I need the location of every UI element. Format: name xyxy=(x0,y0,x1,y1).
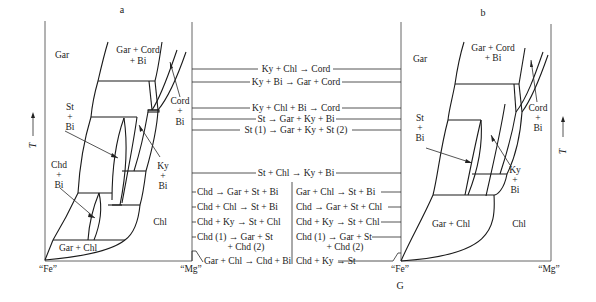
field-gar-cord-bi: Gar + Cord xyxy=(116,45,160,55)
reaction-3: Ky + Chl + Bi → Cord xyxy=(252,103,340,113)
field-cord-bi: Cord xyxy=(171,96,190,106)
field-gar: Gar xyxy=(413,54,428,64)
shared-reaction-lines: Ky + Chl → Cord Ky + Bi → Gar + Cord Ky … xyxy=(192,64,401,178)
panel-b-boundaries xyxy=(401,42,548,261)
panel-b-x-right-label: “Mg” xyxy=(538,264,560,274)
panel-b: b T xyxy=(401,7,568,274)
field-chl: Chl xyxy=(512,219,526,229)
panel-a-label: a xyxy=(120,4,125,15)
field-st-bi: St xyxy=(66,102,74,112)
phase-diagram-figure: a T xyxy=(0,0,596,302)
svg-text:+: + xyxy=(535,113,540,123)
panel-b-field-labels: Gar Gar + Cord + Bi Cord + Bi St + Bi Ky… xyxy=(413,43,548,229)
svg-text:+: + xyxy=(56,170,61,180)
panel-a-axis-t: T xyxy=(28,142,38,148)
temperature-axis-arrow-icon xyxy=(31,112,35,136)
svg-text:Bi: Bi xyxy=(511,185,520,195)
left-reaction-3: Chd + Ky → St + Chl xyxy=(197,217,281,227)
svg-text:+: + xyxy=(67,112,72,122)
reaction-1: Ky + Chl → Cord xyxy=(262,64,331,74)
svg-text:+ Chd (2): + Chd (2) xyxy=(227,242,264,253)
reaction-6: St + Chl → Ky + Bi xyxy=(258,168,335,178)
right-reaction-column: Gar + Chl → St + Bi Chd → Gar + St + Chl… xyxy=(296,187,401,266)
field-cord-bi: Cord xyxy=(529,103,548,113)
field-gar-chl: Gar + Chl xyxy=(432,219,470,229)
svg-text:+: + xyxy=(160,171,165,181)
panel-a: a T xyxy=(28,4,202,274)
field-ky-bi: Ky xyxy=(157,161,169,171)
panel-a-field-labels: Gar Gar + Cord + Bi Cord + Bi St + Bi Ch… xyxy=(51,45,190,253)
panel-a-x-right-label: “Mg” xyxy=(180,264,202,274)
center-reactions: Ky + Chl → Cord Ky + Bi → Gar + Cord Ky … xyxy=(192,22,409,291)
left-reaction-2: Chd + Chl → St + Bi xyxy=(197,202,278,212)
svg-text:Bi: Bi xyxy=(66,122,75,132)
svg-text:Bi: Bi xyxy=(55,180,64,190)
svg-text:+ Bi: + Bi xyxy=(130,56,147,66)
right-reaction-1: Gar + Chl → St + Bi xyxy=(296,187,376,197)
reaction-2: Ky + Bi → Gar + Cord xyxy=(252,77,341,87)
field-chd-bi: Chd xyxy=(51,160,67,170)
field-gar-chl: Gar + Chl xyxy=(59,243,97,253)
field-gar-cord-bi: Gar + Cord xyxy=(471,43,515,53)
field-gar: Gar xyxy=(55,50,70,60)
svg-text:Bi: Bi xyxy=(176,117,185,127)
svg-text:Bi: Bi xyxy=(416,133,425,143)
panel-a-boundaries xyxy=(45,42,186,260)
svg-text:+: + xyxy=(417,123,422,133)
field-chl: Chl xyxy=(153,217,167,227)
field-ky-bi: Ky xyxy=(509,165,521,175)
center-bottom-label: G xyxy=(396,280,403,291)
right-reaction-2: Chd → Gar + St + Chl xyxy=(296,202,383,212)
svg-text:+: + xyxy=(177,106,182,116)
svg-text:+ Bi: + Bi xyxy=(485,53,502,63)
panel-b-axis-t: T xyxy=(558,148,568,154)
panel-b-label: b xyxy=(481,7,486,18)
reaction-5: St (1) → Gar + Ky + St (2) xyxy=(244,125,347,136)
svg-text:+ Chd (2): + Chd (2) xyxy=(326,242,363,253)
svg-text:+: + xyxy=(512,175,517,185)
right-reaction-3: Chd + Ky → St + Chl xyxy=(296,217,380,227)
panel-a-x-left-label: “Fe” xyxy=(39,264,57,274)
left-reaction-5: Gar + Chl → Chd + Bi xyxy=(204,256,292,266)
left-reaction-column: Chd → Gar + St + Bi Chd + Chl → St + Bi … xyxy=(192,187,292,266)
temperature-axis-arrow-icon xyxy=(561,116,565,137)
reaction-4: St → Gar + Ky + Bi xyxy=(257,114,335,124)
svg-text:Bi: Bi xyxy=(159,181,168,191)
left-reaction-1: Chd → Gar + St + Bi xyxy=(197,187,279,197)
svg-text:Bi: Bi xyxy=(534,123,543,133)
field-st-bi: St xyxy=(416,113,424,123)
panel-b-x-left-label: “Fe” xyxy=(391,264,409,274)
